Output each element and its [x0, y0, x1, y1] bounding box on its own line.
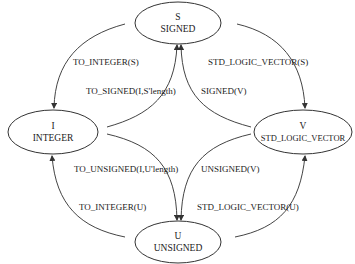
label-slv-u: STD_LOGIC_VECTOR(U) [197, 202, 299, 212]
node-signed: S SIGNED [135, 2, 221, 44]
label-to-integer-s: TO_INTEGER(S) [73, 57, 139, 67]
node-unsigned: U UNSIGNED [135, 221, 221, 263]
node-signed-letter: S [175, 12, 180, 22]
node-integer-name: INTEGER [33, 133, 74, 143]
label-to-integer-u: TO_INTEGER(U) [79, 202, 146, 212]
label-to-unsigned: TO_UNSIGNED(I,U'length) [74, 164, 178, 174]
node-integer-letter: I [51, 121, 54, 131]
label-signed-v: SIGNED(V) [201, 86, 247, 96]
node-signed-name: SIGNED [161, 24, 196, 34]
type-conversion-diagram: S SIGNED I INTEGER V STD_LOGIC_VECTOR U … [0, 0, 355, 264]
node-slv-letter: V [300, 121, 307, 131]
label-unsigned-v: UNSIGNED(V) [201, 164, 260, 174]
label-slv-s: STD_LOGIC_VECTOR(S) [208, 57, 308, 67]
label-to-signed: TO_SIGNED(I,S'length) [86, 86, 176, 96]
node-unsigned-letter: U [175, 231, 182, 241]
node-slv: V STD_LOGIC_VECTOR [254, 110, 352, 154]
node-slv-name: STD_LOGIC_VECTOR [261, 133, 346, 143]
node-integer: I INTEGER [8, 110, 98, 154]
node-unsigned-name: UNSIGNED [154, 243, 203, 253]
